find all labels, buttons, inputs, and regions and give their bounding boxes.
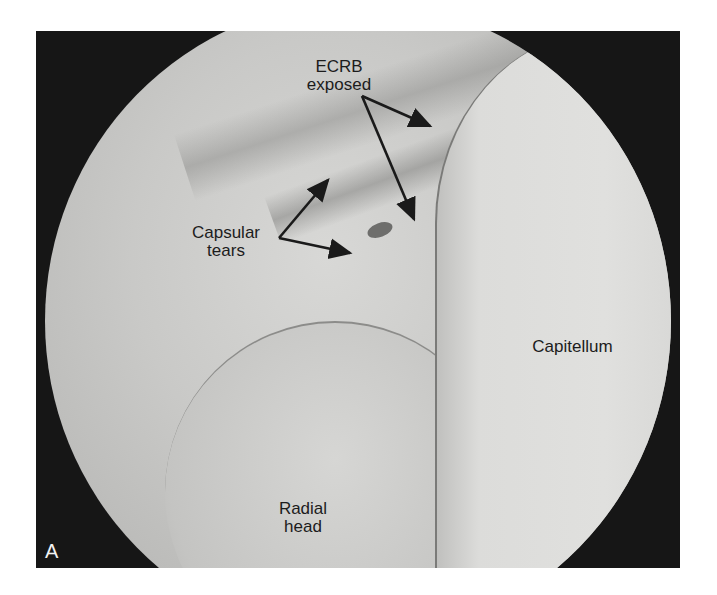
label-radial-head: Radial head	[268, 500, 338, 536]
label-capsular-line2: tears	[176, 242, 276, 260]
label-radial-line2: head	[268, 518, 338, 536]
label-capsular-line1: Capsular	[176, 224, 276, 242]
label-capitellum: Capitellum	[515, 338, 630, 356]
label-ecrb-line2: exposed	[300, 76, 378, 94]
label-capsular-tears: Capsular tears	[176, 224, 276, 260]
panel-label: A	[45, 540, 58, 563]
label-radial-line1: Radial	[268, 500, 338, 518]
label-ecrb-exposed: ECRB exposed	[300, 58, 378, 94]
label-ecrb-line1: ECRB	[300, 58, 378, 76]
